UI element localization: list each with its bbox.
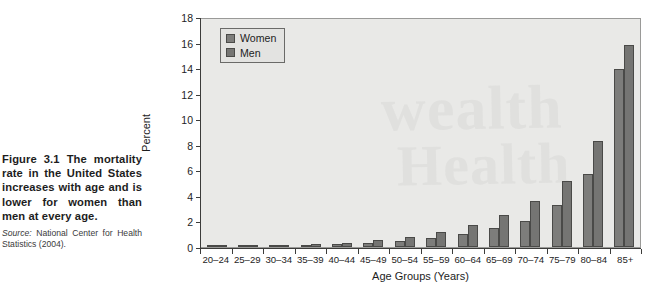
x-axis-title: Age Groups (Years): [200, 270, 641, 282]
y-axis-tick: [196, 171, 201, 172]
legend-item-men: Men: [226, 48, 276, 59]
x-axis-tick-label: 65–69: [484, 254, 516, 265]
bar-men: [624, 45, 634, 247]
bar-group: [452, 19, 483, 247]
bar-group: [389, 19, 420, 247]
y-axis-tick-label: 4: [187, 191, 193, 203]
y-axis-tick: [196, 69, 201, 70]
x-axis-tick-label: 25–29: [232, 254, 264, 265]
caption-text: Figure 3.1 The mortality rate in the Uni…: [2, 152, 142, 223]
bar-group: [577, 19, 608, 247]
y-axis-tick: [196, 44, 201, 45]
source-label: Source:: [2, 228, 32, 238]
y-axis-title: Percent: [140, 114, 152, 152]
y-axis-tick: [196, 146, 201, 147]
bar-women: [552, 205, 562, 247]
x-axis-tick-label: 40–44: [326, 254, 358, 265]
bar-group: [421, 19, 452, 247]
y-axis-tick: [196, 95, 201, 96]
bar-women: [301, 245, 311, 247]
bar-men: [593, 141, 603, 247]
bar-men: [248, 245, 258, 247]
x-axis-tick-label: 70–74: [515, 254, 547, 265]
y-axis-tick-label: 10: [181, 114, 193, 126]
bar-women: [458, 234, 468, 247]
bar-group: [483, 19, 514, 247]
bar-men: [405, 237, 415, 247]
y-axis-tick: [196, 18, 201, 19]
x-axis-tick-label: 60–64: [452, 254, 484, 265]
bar-women: [395, 241, 405, 247]
y-axis: 024681012141618: [200, 18, 201, 248]
bar-men: [499, 215, 509, 247]
bar-group: [358, 19, 389, 247]
y-axis-tick: [196, 197, 201, 198]
bar-women: [489, 228, 499, 247]
bar-men: [468, 225, 478, 247]
y-axis-tick-label: 14: [181, 63, 193, 75]
bar-men: [217, 245, 227, 247]
x-axis-tick-label: 50–54: [389, 254, 421, 265]
bar-women: [207, 245, 217, 247]
x-axis-tick-label: 45–49: [358, 254, 390, 265]
x-axis-tick-label: 75–79: [547, 254, 579, 265]
legend-label-men: Men: [240, 48, 261, 59]
bar-men: [342, 243, 352, 247]
bar-chart: wealth Health 024681012141618 Percent 20…: [148, 6, 669, 286]
caption-source: Source: National Center for Health Stati…: [2, 228, 142, 250]
bar-group: [295, 19, 326, 247]
bar-women: [614, 69, 624, 247]
y-axis-tick-label: 8: [187, 140, 193, 152]
bar-women: [583, 174, 593, 247]
legend-swatch-women: [226, 34, 235, 43]
x-axis-tick-labels: 20–2425–2930–3435–3940–4445–4950–5455–59…: [200, 254, 641, 265]
bar-men: [279, 245, 289, 247]
x-axis-tick-label: 35–39: [295, 254, 327, 265]
bar-women: [332, 244, 342, 247]
bar-men: [436, 232, 446, 247]
x-axis-tick: [641, 249, 642, 254]
bar-women: [520, 221, 530, 247]
bar-women: [426, 238, 436, 247]
x-axis-tick-label: 20–24: [200, 254, 232, 265]
x-axis-tick-label: 80–84: [578, 254, 610, 265]
y-axis-tick: [196, 120, 201, 121]
bar-women: [269, 245, 279, 247]
legend-swatch-men: [226, 48, 235, 57]
y-axis-tick-label: 0: [187, 242, 193, 254]
figure-page: Figure 3.1 The mortality rate in the Uni…: [0, 0, 671, 291]
x-axis-tick-label: 55–59: [421, 254, 453, 265]
bar-men: [373, 240, 383, 247]
chart-legend: Women Men: [220, 28, 285, 63]
y-axis-tick: [196, 222, 201, 223]
bar-men: [562, 181, 572, 247]
x-axis: [200, 248, 641, 249]
bar-group: [326, 19, 357, 247]
y-axis-tick-label: 12: [181, 89, 193, 101]
legend-label-women: Women: [240, 33, 276, 44]
x-axis-tick-label: 85+: [610, 254, 642, 265]
bar-group: [546, 19, 577, 247]
bar-group: [515, 19, 546, 247]
bar-men: [530, 201, 540, 247]
y-axis-tick-label: 2: [187, 216, 193, 228]
bar-women: [363, 243, 373, 247]
bar-group: [609, 19, 640, 247]
y-axis-tick-label: 6: [187, 165, 193, 177]
bar-men: [311, 244, 321, 247]
bar-women: [238, 245, 248, 247]
y-axis-tick-label: 16: [181, 38, 193, 50]
y-axis-tick-label: 18: [181, 12, 193, 24]
legend-item-women: Women: [226, 33, 276, 44]
x-axis-tick-label: 30–34: [263, 254, 295, 265]
figure-caption: Figure 3.1 The mortality rate in the Uni…: [2, 152, 142, 250]
